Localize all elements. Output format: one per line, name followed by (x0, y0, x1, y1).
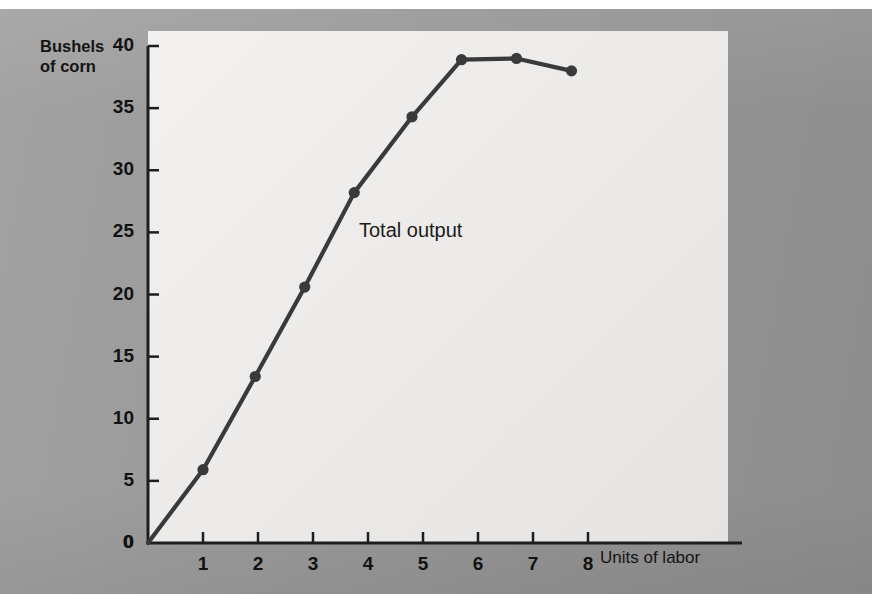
tick-marks-group (148, 46, 588, 543)
x-tick-label: 8 (578, 553, 598, 575)
chart-svg (0, 0, 872, 614)
x-tick-label: 3 (303, 553, 323, 575)
x-tick-label: 2 (248, 553, 268, 575)
data-markers-group (197, 53, 577, 475)
data-point-marker (250, 371, 261, 382)
y-tick-label: 35 (100, 96, 134, 118)
x-tick-label: 6 (468, 553, 488, 575)
y-tick-label: 40 (100, 34, 134, 56)
x-tick-label: 1 (193, 553, 213, 575)
y-tick-label: 10 (100, 407, 134, 429)
x-axis-title: Units of labor (600, 548, 700, 568)
x-tick-label: 0 (118, 531, 138, 553)
y-tick-label: 5 (100, 469, 134, 491)
x-tick-label: 7 (523, 553, 543, 575)
data-point-marker (511, 53, 522, 64)
y-axis-title-line2: of corn (40, 56, 104, 76)
x-tick-label: 4 (358, 553, 378, 575)
y-tick-label: 30 (100, 158, 134, 180)
y-tick-label: 20 (100, 283, 134, 305)
data-point-marker (197, 464, 208, 475)
series-annotation-total-output: Total output (359, 219, 462, 242)
total-output-line (148, 58, 572, 543)
data-point-marker (406, 111, 417, 122)
data-point-marker (456, 54, 467, 65)
y-axis-title: Bushels of corn (40, 36, 104, 76)
data-point-marker (299, 281, 310, 292)
data-point-marker (566, 65, 577, 76)
data-series-group (148, 58, 572, 543)
y-tick-label: 25 (100, 220, 134, 242)
figure-page: Bushels of corn Units of labor Total out… (0, 0, 872, 614)
x-tick-label: 5 (413, 553, 433, 575)
y-tick-label: 15 (100, 345, 134, 367)
axes-group (148, 46, 742, 543)
y-axis-title-line1: Bushels (40, 36, 104, 56)
data-point-marker (349, 187, 360, 198)
